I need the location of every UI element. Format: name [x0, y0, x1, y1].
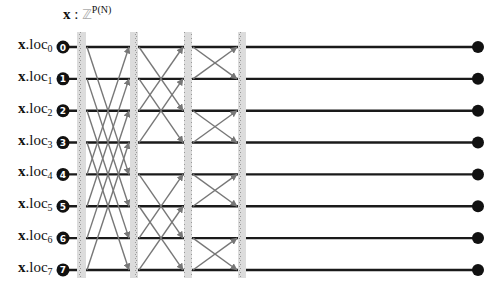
butterfly-network-diagram: 01234567	[0, 0, 502, 299]
label-var: x	[18, 195, 26, 211]
label-field: .loc	[26, 259, 48, 275]
barriers	[77, 32, 246, 278]
crossing-edges	[87, 47, 237, 270]
label-field: .loc	[26, 100, 48, 116]
label-field: .loc	[26, 195, 48, 211]
label-var: x	[18, 68, 26, 84]
label-field: .loc	[26, 132, 48, 148]
input-node-number: 6	[60, 234, 66, 244]
wires	[63, 47, 478, 270]
label-field: .loc	[26, 163, 48, 179]
barrier-1	[77, 32, 86, 278]
output-node-6	[472, 232, 484, 244]
output-node-3	[472, 137, 484, 149]
barrier-2	[130, 32, 138, 278]
label-index: 4	[48, 170, 53, 181]
diagram-title: x : ℤP(N)	[63, 4, 111, 23]
location-label-5: x.loc5	[18, 195, 53, 213]
output-node-7	[472, 264, 484, 276]
label-var: x	[18, 259, 26, 275]
label-index: 1	[48, 75, 53, 86]
label-var: x	[18, 100, 26, 116]
label-index: 7	[48, 266, 53, 277]
output-node-1	[472, 73, 484, 85]
label-var: x	[18, 132, 26, 148]
input-node-number: 1	[60, 74, 66, 84]
nodes: 01234567	[57, 41, 485, 277]
barrier-4	[238, 32, 246, 278]
label-index: 3	[48, 139, 53, 150]
location-label-2: x.loc2	[18, 100, 53, 118]
label-field: .loc	[26, 68, 48, 84]
label-var: x	[18, 36, 26, 52]
integer-set-symbol: ℤ	[82, 7, 92, 22]
input-node-number: 5	[60, 202, 66, 212]
label-index: 5	[48, 202, 53, 213]
label-field: .loc	[26, 36, 48, 52]
location-label-1: x.loc1	[18, 68, 53, 86]
title-var: x	[63, 6, 71, 22]
label-var: x	[18, 163, 26, 179]
input-node-number: 3	[60, 138, 66, 148]
input-node-number: 7	[60, 265, 66, 275]
label-var: x	[18, 227, 26, 243]
input-node-number: 4	[60, 170, 66, 180]
location-label-4: x.loc4	[18, 163, 53, 181]
label-field: .loc	[26, 227, 48, 243]
location-label-0: x.loc0	[18, 36, 53, 54]
output-node-4	[472, 168, 484, 180]
barrier-3	[184, 32, 192, 278]
title-superscript: P(N)	[92, 4, 111, 15]
output-node-0	[472, 41, 484, 53]
label-index: 6	[48, 234, 53, 245]
output-node-2	[472, 105, 484, 117]
label-index: 2	[48, 107, 53, 118]
title-sep: :	[71, 6, 83, 22]
location-label-6: x.loc6	[18, 227, 53, 245]
input-node-number: 0	[60, 43, 66, 53]
location-label-7: x.loc7	[18, 259, 53, 277]
output-node-5	[472, 200, 484, 212]
label-index: 0	[48, 43, 53, 54]
input-node-number: 2	[60, 106, 66, 116]
location-label-3: x.loc3	[18, 132, 53, 150]
